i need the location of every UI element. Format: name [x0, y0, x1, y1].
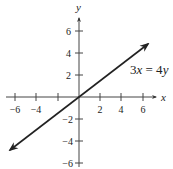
- x-axis-label: x: [160, 91, 166, 103]
- y-tick-label: 4: [66, 48, 71, 59]
- y-tick-label: 2: [66, 70, 71, 81]
- x-tick-label: 4: [119, 104, 124, 115]
- y-axis-label: y: [75, 1, 81, 13]
- y-tick-label: −4: [62, 136, 73, 147]
- equation-label: 3x = 4y: [130, 62, 169, 77]
- coordinate-plane: −6 −4 2 4 6 6 4 2 −2 −4 −6 x y 3x = 4y: [0, 0, 173, 169]
- x-tick-label: 6: [141, 104, 146, 115]
- x-tick-label: −6: [10, 104, 21, 115]
- y-tick-label: 6: [66, 26, 71, 37]
- x-tick-label: 2: [98, 104, 103, 115]
- y-tick-label: −2: [62, 114, 73, 125]
- y-tick-label: −6: [62, 158, 73, 169]
- x-tick-label: −4: [31, 104, 42, 115]
